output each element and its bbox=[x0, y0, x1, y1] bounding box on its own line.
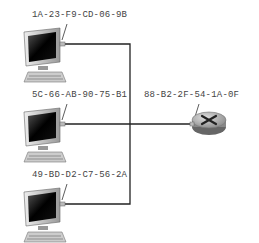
router-mac-label: 88-B2-2F-54-1A-0F bbox=[144, 90, 239, 100]
host-3-mac-label: 49-BD-D2-C7-56-2A bbox=[32, 170, 127, 180]
network-diagram bbox=[0, 0, 259, 243]
host-2-mac-label: 5C-66-AB-90-75-B1 bbox=[32, 90, 127, 100]
host-1-mac-label: 1A-23-F9-CD-06-9B bbox=[32, 10, 127, 20]
computer-icon bbox=[24, 108, 66, 162]
router-icon bbox=[190, 112, 226, 135]
computer-icon bbox=[24, 188, 66, 242]
link-lines bbox=[64, 44, 192, 204]
computer-icon bbox=[24, 28, 66, 82]
